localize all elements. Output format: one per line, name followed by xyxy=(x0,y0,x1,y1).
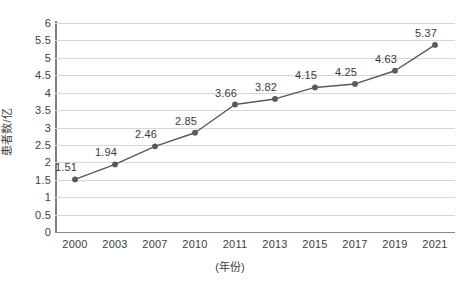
y-axis-tick-label: 5.5 xyxy=(17,35,51,46)
data-point-marker xyxy=(152,143,158,149)
data-point-label: 4.25 xyxy=(326,67,366,78)
y-axis-tick-label: 6 xyxy=(17,18,51,29)
y-axis-tick-label: 0 xyxy=(17,227,51,238)
gridline xyxy=(55,232,455,233)
y-axis-tick-label: 4.5 xyxy=(17,70,51,81)
y-axis-tick-label: 5 xyxy=(17,53,51,64)
x-axis-tick-labels: 2000200320072010201120132015201720192021 xyxy=(55,238,455,256)
y-axis-tick-labels: 00.511.522.533.544.555.56 xyxy=(13,0,51,283)
y-axis-tick-label: 0.5 xyxy=(17,210,51,221)
data-point-marker xyxy=(352,81,358,87)
y-axis-tick-label: 2.5 xyxy=(17,140,51,151)
data-point-label: 2.46 xyxy=(126,129,166,140)
data-point-label: 3.66 xyxy=(206,88,246,99)
data-point-label: 3.82 xyxy=(246,82,286,93)
y-axis-tick-label: 3 xyxy=(17,123,51,134)
y-axis-tick-label: 1 xyxy=(17,192,51,203)
y-axis-title: 患者数/亿 xyxy=(1,97,13,167)
plot-area: 1.511.942.462.853.663.824.154.254.635.37 xyxy=(55,23,455,232)
y-axis-tick-label: 4 xyxy=(17,88,51,99)
data-point-marker xyxy=(432,42,438,48)
series-polyline xyxy=(75,45,435,179)
data-point-marker xyxy=(112,162,118,168)
data-point-label: 2.85 xyxy=(166,116,206,127)
data-point-marker xyxy=(392,68,398,74)
data-point-label: 4.15 xyxy=(286,70,326,81)
x-axis-title: (年份) xyxy=(155,261,305,273)
line-chart: 00.511.522.533.544.555.56 1.511.942.462.… xyxy=(0,0,464,283)
data-point-marker xyxy=(232,102,238,108)
y-axis-tick-label: 1.5 xyxy=(17,175,51,186)
data-point-marker xyxy=(192,130,198,136)
data-point-marker xyxy=(312,85,318,91)
data-point-label: 1.51 xyxy=(46,162,86,173)
data-point-label: 4.63 xyxy=(366,54,406,65)
data-point-marker xyxy=(272,96,278,102)
x-axis-tick-label: 2021 xyxy=(412,238,458,251)
data-point-label: 1.94 xyxy=(86,147,126,158)
y-axis-tick-label: 3.5 xyxy=(17,105,51,116)
data-point-marker xyxy=(72,177,78,183)
data-point-label: 5.37 xyxy=(406,28,446,39)
